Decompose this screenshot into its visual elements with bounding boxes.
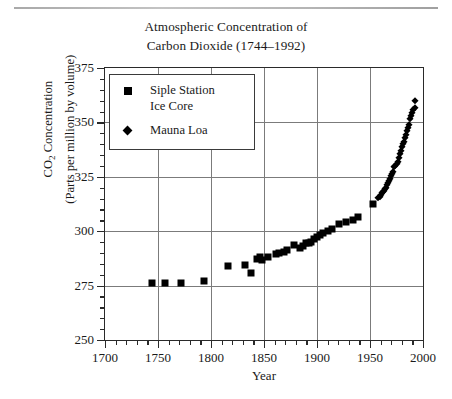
y-tick-label: 350 <box>75 114 95 130</box>
y-tick <box>97 122 105 123</box>
y-axis-label: CO2 Concentration (Parts per million by … <box>40 4 79 254</box>
x-tick-minor <box>381 340 382 345</box>
chart-legend: Siple Station Ice Core Mauna Loa <box>109 74 255 150</box>
data-point <box>178 279 185 286</box>
y-tick-label: 300 <box>75 223 95 239</box>
data-point <box>355 214 362 221</box>
x-tick <box>158 340 159 348</box>
y-tick-label: 375 <box>75 60 95 76</box>
x-tick-minor <box>338 340 339 345</box>
legend-label-siple: Siple Station Ice Core <box>140 83 215 114</box>
x-tick-label: 1750 <box>145 350 171 366</box>
y-tick-minor <box>100 101 105 102</box>
y-tick-minor <box>100 209 105 210</box>
x-tick-label: 1900 <box>304 350 330 366</box>
x-tick-minor <box>232 340 233 345</box>
y-tick-minor <box>100 112 105 113</box>
x-tick <box>211 340 212 348</box>
y-tick <box>97 340 105 341</box>
x-tick-minor <box>402 340 403 345</box>
x-tick-minor <box>296 340 297 345</box>
data-point <box>162 280 169 287</box>
data-point <box>248 269 255 276</box>
data-point <box>224 263 231 270</box>
data-point <box>265 253 272 260</box>
gridline-vertical <box>264 68 265 340</box>
legend-item-mauna-loa: Mauna Loa <box>120 123 208 139</box>
y-tick-minor <box>100 166 105 167</box>
x-tick-minor <box>412 340 413 345</box>
data-point <box>328 225 335 232</box>
y-tick <box>97 231 105 232</box>
y-tick-minor <box>100 90 105 91</box>
x-axis-label: Year <box>104 368 424 384</box>
y-tick <box>97 68 105 69</box>
data-point <box>411 97 419 105</box>
y-tick-minor <box>100 220 105 221</box>
x-tick-minor <box>190 340 191 345</box>
x-tick-label: 1950 <box>357 350 383 366</box>
x-tick <box>370 340 371 348</box>
gridline-vertical <box>317 68 318 340</box>
x-tick-label: 1700 <box>92 350 118 366</box>
x-tick-minor <box>222 340 223 345</box>
y-tick <box>97 286 105 287</box>
y-tick-minor <box>100 329 105 330</box>
x-tick <box>423 340 424 348</box>
y-tick-minor <box>100 79 105 80</box>
x-tick-minor <box>137 340 138 345</box>
chart-page: Atmospheric Concentration of Carbon Diox… <box>0 0 452 399</box>
y-tick-label: 325 <box>75 169 95 185</box>
x-tick-minor <box>179 340 180 345</box>
y-tick-label: 250 <box>75 332 95 348</box>
x-tick-label: 1850 <box>251 350 277 366</box>
data-point <box>370 200 377 207</box>
x-tick <box>317 340 318 348</box>
y-tick <box>97 177 105 178</box>
x-tick <box>105 340 106 348</box>
plot-area: 2502753003253503751700175018001850190019… <box>104 67 424 341</box>
y-tick-minor <box>100 199 105 200</box>
x-tick-minor <box>243 340 244 345</box>
x-tick-minor <box>169 340 170 345</box>
y-tick-minor <box>100 188 105 189</box>
data-point <box>148 280 155 287</box>
x-tick-minor <box>253 340 254 345</box>
x-tick-minor <box>349 340 350 345</box>
y-tick-minor <box>100 144 105 145</box>
y-tick-minor <box>100 275 105 276</box>
x-tick-minor <box>275 340 276 345</box>
y-tick-minor <box>100 242 105 243</box>
legend-label-mauna-loa: Mauna Loa <box>140 123 208 139</box>
x-tick-label: 1800 <box>198 350 224 366</box>
y-tick-minor <box>100 307 105 308</box>
y-tick-minor <box>100 253 105 254</box>
x-tick-minor <box>285 340 286 345</box>
data-point <box>200 278 207 285</box>
x-tick-label: 2000 <box>410 350 436 366</box>
diamond-marker-icon <box>120 123 140 139</box>
y-tick-minor <box>100 296 105 297</box>
y-tick-minor <box>100 318 105 319</box>
y-tick-minor <box>100 133 105 134</box>
x-tick-minor <box>328 340 329 345</box>
x-tick-minor <box>126 340 127 345</box>
y-tick-minor <box>100 264 105 265</box>
x-tick-minor <box>391 340 392 345</box>
legend-item-siple: Siple Station Ice Core <box>120 83 215 114</box>
y-tick-minor <box>100 155 105 156</box>
x-tick-minor <box>359 340 360 345</box>
x-tick-minor <box>306 340 307 345</box>
data-point <box>342 219 349 226</box>
data-point <box>241 262 248 269</box>
y-tick-label: 275 <box>75 278 95 294</box>
x-tick-minor <box>200 340 201 345</box>
x-tick-minor <box>116 340 117 345</box>
x-tick <box>264 340 265 348</box>
x-tick-minor <box>147 340 148 345</box>
y-axis-label-line-1: CO2 Concentration <box>40 4 62 254</box>
square-marker-icon <box>120 83 140 99</box>
